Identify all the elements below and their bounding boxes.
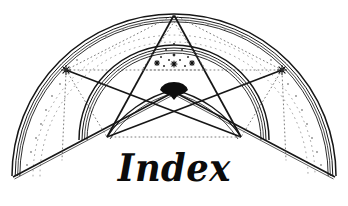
emblem-page: Index bbox=[0, 0, 348, 206]
base-spring-lines bbox=[13, 92, 335, 179]
arched-pentagram-emblem bbox=[0, 0, 348, 206]
